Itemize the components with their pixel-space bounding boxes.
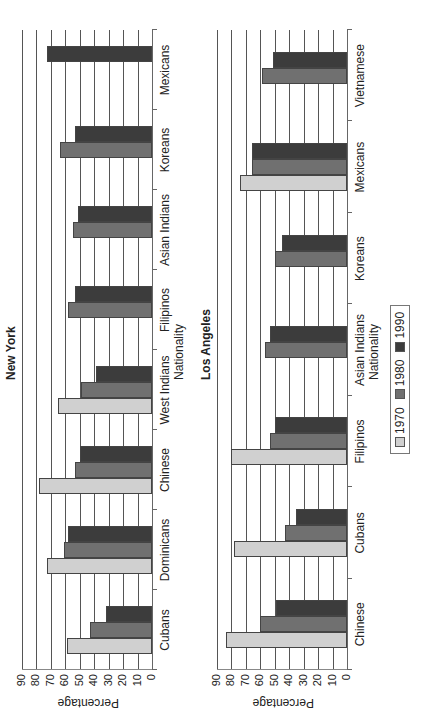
category-label: Mexicans [158,25,172,115]
y-axis-label: Percentage [58,696,119,710]
bar-1970 [240,175,347,191]
chart-title: Los Angeles [199,309,213,380]
legend-item-1980: 1980 [393,360,407,400]
y-tick-label: 80 [29,674,41,696]
y-tick-label: 0 [340,674,352,696]
category-label: Dominicans [158,505,172,595]
category-label: Vietnamese [353,31,367,121]
category-tick [152,269,157,270]
bar-1990 [68,526,152,542]
bar-1990 [273,52,347,68]
bar-1980 [260,616,347,632]
legend-swatch [395,342,405,352]
gridline [246,30,247,670]
bar-1980 [64,542,152,558]
x-axis-label: Nationality [367,324,381,380]
bar-1990 [276,600,347,616]
bar-1990 [296,509,347,525]
category-tick [347,212,352,213]
new-york-chart: New YorkPercentage0102030405060708090Cub… [0,0,195,710]
chart-title: New York [4,326,18,380]
bar-1980 [60,142,152,158]
bar-1990 [47,46,152,62]
gridline [231,30,232,670]
plot-area [217,30,347,670]
legend-swatch [395,437,405,447]
category-tick [152,509,157,510]
category-label: Filipinos [158,265,172,355]
legend-swatch [395,389,405,399]
category-label: Cubans [158,585,172,675]
legend-item-1990: 1990 [393,312,407,352]
category-tick [347,29,352,30]
category-label: Cubans [353,488,367,578]
legend-item-1970: 1970 [393,407,407,447]
y-axis-line [22,669,152,670]
y-tick-label: 40 [282,674,294,696]
legend-label: 1970 [393,407,407,434]
gridline [65,30,66,670]
gridline [217,30,218,670]
bar-1970 [231,449,347,465]
category-label: Koreans [353,214,367,304]
bar-1990 [75,126,152,142]
y-axis-label: Percentage [253,696,314,710]
category-tick [347,578,352,579]
y-tick-label: 40 [87,674,99,696]
category-tick [152,189,157,190]
y-tick-label: 50 [73,674,85,696]
y-tick-label: 60 [58,674,70,696]
bar-1990 [106,606,152,622]
bar-1990 [282,235,347,251]
category-tick [347,395,352,396]
bar-1990 [275,417,347,433]
category-tick [152,669,157,670]
category-tick [347,303,352,304]
category-tick [152,349,157,350]
rotated-figure: New YorkPercentage0102030405060708090Cub… [0,0,430,710]
category-label: Asian Indians [158,185,172,275]
category-label: Chinese [353,579,367,669]
bar-1980 [275,251,347,267]
y-tick-label: 0 [145,674,157,696]
category-tick [347,486,352,487]
category-tick [152,29,157,30]
bar-1980 [75,462,152,478]
bar-1980 [270,433,347,449]
legend: 197019801990 [390,305,410,454]
x-axis-label: Nationality [172,324,186,380]
y-tick-label: 20 [311,674,323,696]
bar-1980 [252,159,347,175]
y-tick-label: 70 [239,674,251,696]
category-label: Chinese [158,425,172,515]
bar-1980 [265,342,347,358]
bar-1970 [67,638,152,654]
bar-1970 [226,632,347,648]
gridline [51,30,52,670]
bar-1980 [73,222,152,238]
bar-1980 [90,622,152,638]
y-axis-line [217,669,347,670]
y-tick-label: 90 [15,674,27,696]
bar-1970 [58,398,152,414]
category-tick [347,669,352,670]
y-tick-label: 20 [116,674,128,696]
legend-label: 1980 [393,360,407,387]
bar-1970 [234,541,347,557]
bar-1990 [78,206,152,222]
y-tick-label: 10 [326,674,338,696]
gridline [152,30,153,670]
category-label: Koreans [158,105,172,195]
gridline [347,30,348,670]
bar-1980 [262,68,347,84]
gridline [260,30,261,670]
bar-1970 [39,478,152,494]
bar-1990 [96,366,152,382]
los-angeles-chart: Los AngelesPercentage0102030405060708090… [195,0,385,710]
bar-1980 [285,525,347,541]
bar-1970 [47,558,152,574]
y-tick-label: 70 [44,674,56,696]
bar-1980 [81,382,152,398]
gridline [22,30,23,670]
y-tick-label: 30 [297,674,309,696]
